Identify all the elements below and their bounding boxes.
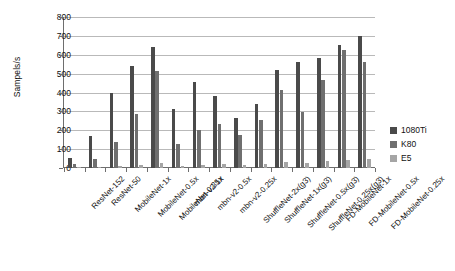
x-tick-mark (292, 168, 293, 172)
x-tick-mark (85, 168, 86, 172)
x-tick-mark (313, 168, 314, 172)
x-tick-mark (271, 168, 272, 172)
x-tick-mark (105, 168, 106, 172)
x-tick-mark (230, 168, 231, 172)
x-tick-mark (126, 168, 127, 172)
legend-item[interactable]: 1080Ti (390, 126, 427, 135)
legend-swatch-icon (390, 155, 397, 162)
chart-legend: 1080TiK80E5 (390, 126, 427, 168)
legend-label: K80 (401, 140, 416, 149)
x-tick-mark (209, 168, 210, 172)
x-tick-mark (375, 168, 376, 172)
x-axis-labels: ResNet-152ResNet-50MobileNet-1xMobileNet… (0, 0, 455, 271)
x-tick-mark (64, 168, 65, 172)
x-tick-mark (334, 168, 335, 172)
x-tick-mark (147, 168, 148, 172)
legend-item[interactable]: K80 (390, 140, 427, 149)
legend-item[interactable]: E5 (390, 154, 427, 163)
legend-swatch-icon (390, 127, 397, 134)
x-tick-mark (168, 168, 169, 172)
legend-label: 1080Ti (401, 126, 427, 135)
legend-label: E5 (401, 154, 411, 163)
x-tick-mark (188, 168, 189, 172)
legend-swatch-icon (390, 141, 397, 148)
x-tick-mark (251, 168, 252, 172)
bar-chart: Sampels/s 8007006005004003002001000 ResN… (0, 0, 455, 271)
x-tick-mark (354, 168, 355, 172)
